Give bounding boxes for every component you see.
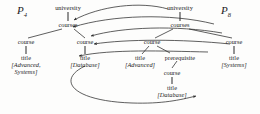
node-right-university: university bbox=[167, 5, 193, 12]
tree-edge-layer bbox=[0, 0, 260, 114]
node-left-course-b: course bbox=[77, 39, 94, 46]
node-label: course bbox=[18, 38, 35, 45]
figure-canvas: P4 P8 university courses course title [A… bbox=[0, 0, 260, 114]
node-label: course bbox=[226, 38, 243, 45]
edge-right-courses-course-a bbox=[155, 29, 173, 38]
node-label: prerequisite bbox=[165, 54, 195, 61]
node-right-course-b: course bbox=[226, 39, 243, 46]
node-left-courses: courses bbox=[58, 22, 77, 29]
node-label: courses bbox=[58, 21, 77, 28]
node-value: [Systems] bbox=[221, 61, 246, 68]
node-label: course bbox=[144, 38, 161, 45]
node-label: title bbox=[167, 84, 177, 91]
node-label: university bbox=[55, 4, 81, 11]
node-label: course bbox=[77, 38, 94, 45]
edge-right-prereq-course bbox=[172, 61, 177, 68]
node-label: course bbox=[164, 69, 181, 76]
node-right-course-a: course bbox=[144, 39, 161, 46]
node-label: title bbox=[135, 54, 145, 61]
node-label: title bbox=[80, 54, 90, 61]
node-left-course-a: course bbox=[18, 39, 35, 46]
edge-right-courses-course-b bbox=[189, 29, 232, 38]
node-left-value-a: [Advanced, Systems] bbox=[3, 62, 49, 75]
node-left-value-b: [Database] bbox=[70, 62, 100, 69]
node-right-value-b: [Systems] bbox=[221, 62, 246, 69]
node-label: title bbox=[21, 54, 31, 61]
node-value: [Database] bbox=[157, 91, 187, 98]
node-right-value-a: [Advanced] bbox=[125, 62, 155, 69]
node-value: [Database] bbox=[70, 61, 100, 68]
node-right-courses: courses bbox=[170, 22, 189, 29]
node-left-university: university bbox=[55, 5, 81, 12]
node-right-course-c: course bbox=[164, 70, 181, 77]
edge-left-courses-course-a bbox=[28, 29, 62, 38]
edge-right-course-a-prereq bbox=[157, 46, 170, 53]
node-label: courses bbox=[170, 21, 189, 28]
node-value: [Advanced, Systems] bbox=[11, 61, 40, 75]
node-value: [Advanced] bbox=[125, 61, 155, 68]
edge-left-courses-course-b bbox=[74, 29, 85, 38]
node-right-prerequisite: prerequisite bbox=[165, 55, 195, 62]
node-label: title bbox=[229, 54, 239, 61]
node-label: university bbox=[167, 4, 193, 11]
edge-right-course-a-title bbox=[142, 46, 149, 54]
node-right-value-c: [Database] bbox=[157, 92, 187, 99]
